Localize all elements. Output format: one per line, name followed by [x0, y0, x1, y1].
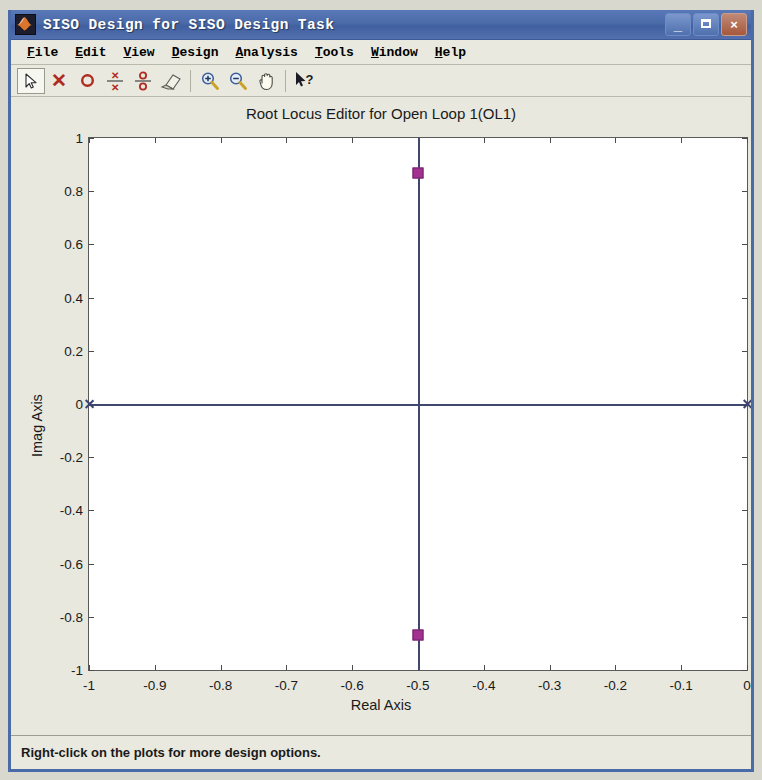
y-axis-tick-right — [742, 564, 747, 565]
add-complex-pole-icon[interactable]: ✕✕ — [101, 68, 129, 94]
x-axis-tick-top — [221, 138, 222, 143]
toolbar-separator — [285, 70, 286, 92]
x-axis-tick-label: -0.2 — [604, 678, 627, 693]
closed-loop-pole-marker[interactable] — [413, 630, 424, 641]
y-axis-tick-right — [742, 138, 747, 139]
x-axis-tick-label: -0.1 — [670, 678, 693, 693]
menu-item-label: Edit — [75, 45, 106, 60]
y-axis-tick-right — [742, 298, 747, 299]
x-axis-tick-top — [615, 138, 616, 143]
minimize-button[interactable]: _ — [665, 13, 691, 36]
menu-bar: FileEditViewDesignAnalysisToolsWindowHel… — [11, 40, 751, 65]
y-axis-tick — [89, 351, 94, 352]
y-axis-tick-right — [742, 351, 747, 352]
menu-view[interactable]: View — [115, 43, 163, 62]
x-axis-tick-label: -0.9 — [143, 678, 166, 693]
x-axis-tick — [550, 665, 551, 670]
plot-axes[interactable]: -1-0.9-0.8-0.7-0.6-0.5-0.4-0.3-0.2-0.101… — [88, 137, 748, 671]
x-axis-tick — [615, 665, 616, 670]
closed-loop-pole-marker[interactable] — [413, 167, 424, 178]
open-loop-pole-marker — [742, 399, 752, 410]
open-loop-pole-marker — [84, 399, 95, 410]
delete-eraser-icon[interactable] — [157, 68, 185, 94]
pointer-arrow-icon[interactable] — [17, 68, 45, 94]
x-axis-tick-label: -0.6 — [341, 678, 364, 693]
app-root: SISO Design for SISO Design Task _ × Fil… — [0, 0, 762, 780]
matlab-icon — [15, 14, 36, 35]
y-axis-tick — [89, 191, 94, 192]
maximize-icon — [701, 19, 711, 28]
y-axis-tick-label: -0.8 — [41, 609, 83, 624]
add-complex-zero-icon[interactable] — [129, 68, 157, 94]
y-axis-tick — [89, 564, 94, 565]
tool-bar: ✕✕✕? — [11, 65, 751, 97]
y-axis-tick-right — [742, 191, 747, 192]
root-locus-plot-panel: Root Locus Editor for Open Loop 1(OL1) I… — [11, 97, 751, 730]
menu-help[interactable]: Help — [427, 43, 475, 62]
menu-analysis[interactable]: Analysis — [227, 43, 306, 62]
menu-design[interactable]: Design — [164, 43, 228, 62]
menu-window[interactable]: Window — [363, 43, 427, 62]
menu-tools[interactable]: Tools — [307, 43, 363, 62]
x-axis-tick-top — [681, 138, 682, 143]
status-bar: Right-click on the plots for more design… — [11, 735, 751, 769]
y-axis-tick-right — [742, 510, 747, 511]
y-axis-tick-right — [742, 457, 747, 458]
x-axis-tick — [155, 665, 156, 670]
x-axis-tick — [681, 665, 682, 670]
minimize-icon: _ — [666, 14, 690, 35]
zoom-out-icon[interactable] — [224, 68, 252, 94]
close-icon: × — [722, 14, 746, 35]
status-message: Right-click on the plots for more design… — [21, 745, 321, 760]
menu-item-label: View — [123, 45, 154, 60]
maximize-button[interactable] — [693, 13, 719, 36]
svg-text:✕: ✕ — [111, 70, 119, 81]
svg-text:✕: ✕ — [111, 82, 119, 92]
siso-design-window: SISO Design for SISO Design Task _ × Fil… — [8, 10, 754, 772]
y-axis-tick — [89, 244, 94, 245]
y-axis-tick-label: 0.4 — [41, 290, 83, 305]
context-help-icon[interactable]: ? — [291, 68, 319, 94]
x-axis-tick-label: 0 — [743, 678, 751, 693]
x-axis-tick — [352, 665, 353, 670]
y-axis-tick-label: 0.8 — [41, 184, 83, 199]
menu-file[interactable]: File — [19, 43, 67, 62]
x-axis-tick-label: -0.8 — [209, 678, 232, 693]
window-controls: _ × — [665, 13, 749, 36]
x-axis-tick-label: -0.5 — [406, 678, 429, 693]
x-axis-tick — [221, 665, 222, 670]
y-axis-tick-label: 1 — [41, 131, 83, 146]
y-axis-tick-label: -0.4 — [41, 503, 83, 518]
x-axis-tick-top — [747, 138, 748, 143]
close-button[interactable]: × — [721, 13, 747, 36]
y-axis-tick-label: 0.2 — [41, 343, 83, 358]
y-axis-tick-label: 0 — [41, 397, 83, 412]
x-axis-tick — [747, 665, 748, 670]
toolbar-separator — [190, 70, 191, 92]
y-axis-tick — [89, 510, 94, 511]
menu-item-label: Help — [435, 45, 466, 60]
x-axis-tick-label: -0.3 — [538, 678, 561, 693]
menu-edit[interactable]: Edit — [67, 43, 115, 62]
y-axis-tick-label: -0.2 — [41, 450, 83, 465]
x-axis-tick-top — [286, 138, 287, 143]
title-bar: SISO Design for SISO Design Task _ × — [11, 10, 751, 40]
y-axis-tick-right — [742, 244, 747, 245]
pan-hand-icon[interactable] — [252, 68, 280, 94]
add-real-pole-icon[interactable]: ✕ — [45, 68, 73, 94]
x-axis-tick-top — [484, 138, 485, 143]
menu-item-label: File — [27, 45, 58, 60]
add-real-zero-icon[interactable] — [73, 68, 101, 94]
chart-title: Root Locus Editor for Open Loop 1(OL1) — [11, 105, 751, 122]
x-axis-tick-top — [352, 138, 353, 143]
y-axis-tick — [89, 298, 94, 299]
y-axis-tick-right — [742, 670, 747, 671]
svg-text:?: ? — [306, 72, 314, 87]
window-title: SISO Design for SISO Design Task — [43, 17, 665, 33]
x-axis-tick-label: -0.7 — [275, 678, 298, 693]
y-axis-tick — [89, 617, 94, 618]
zoom-in-icon[interactable] — [196, 68, 224, 94]
x-axis-label: Real Axis — [11, 697, 751, 713]
y-axis-tick-label: -1 — [41, 663, 83, 678]
menu-item-label: Window — [371, 45, 418, 60]
